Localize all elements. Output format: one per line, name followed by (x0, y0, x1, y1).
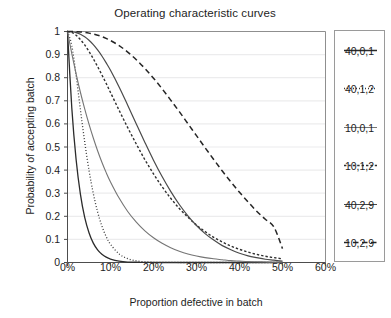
legend-item-10-2-9[interactable]: 10,2,9 (335, 223, 384, 262)
legend-item-label: 40,1,2 (335, 83, 384, 95)
legend-item-40-0-1[interactable]: 40,0,1 (335, 31, 384, 70)
chart-legend: 40,0,140,1,210,0,110,1,240,2,910,2,9 (334, 30, 385, 262)
legend-line-sample (344, 153, 377, 156)
plot-area (0, 0, 391, 318)
legend-line-sample (344, 192, 377, 195)
chart-series-line (68, 32, 283, 259)
chart-figure: Operating characteristic curves Probabil… (0, 0, 391, 318)
legend-item-40-2-9[interactable]: 40,2,9 (335, 185, 384, 224)
legend-item-10-1-2[interactable]: 10,1,2 (335, 146, 384, 185)
legend-item-label: 10,1,2 (335, 160, 384, 172)
legend-line-sample (344, 38, 377, 41)
legend-line-sample (344, 230, 377, 233)
legend-item-10-0-1[interactable]: 10,0,1 (335, 108, 384, 147)
legend-item-label: 40,2,9 (335, 199, 384, 211)
legend-item-label: 10,0,1 (335, 122, 384, 134)
chart-series-line (68, 32, 283, 262)
legend-item-40-1-2[interactable]: 40,1,2 (335, 69, 384, 108)
legend-line-sample (344, 76, 377, 79)
legend-line-sample (344, 115, 377, 118)
legend-item-label: 10,2,9 (335, 237, 384, 249)
legend-item-label: 40,0,1 (335, 45, 384, 57)
